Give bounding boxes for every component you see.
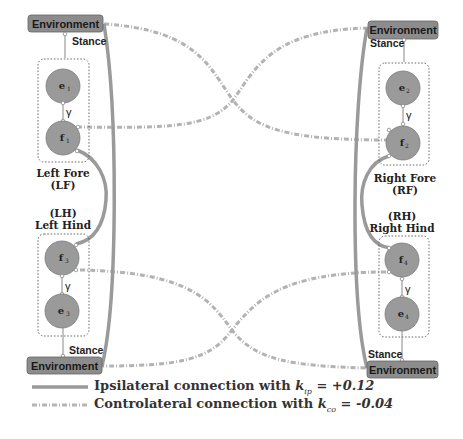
leg-lh: (LH) Left Hind f 3 γ e 3 Stance Environm… [27, 207, 104, 374]
cpg-diagram: Environment Stance e 1 γ f 1 Left Fore (… [0, 0, 463, 439]
svg-text:3: 3 [66, 310, 70, 317]
ipsilateral-connections [76, 24, 390, 368]
legend-contralateral-text: Controlateral connection with [94, 396, 318, 411]
leg-abbr-rh: (RH) [388, 210, 417, 222]
svg-text:2: 2 [405, 142, 409, 149]
gamma-label: γ [65, 280, 71, 292]
contralateral-lh-f3-to-rh-env [80, 270, 367, 368]
env-label: Environment [32, 18, 100, 30]
contralateral-connections [80, 24, 388, 368]
env-label: Environment [369, 364, 437, 376]
leg-name-rf: Right Fore [374, 172, 437, 184]
legend-ipsilateral-text: Ipsilateral connection with [94, 378, 295, 393]
svg-text:3: 3 [65, 257, 69, 264]
leg-abbr-lh: (LH) [49, 207, 76, 219]
node-e2-label: e [399, 82, 405, 93]
svg-text:1: 1 [67, 85, 71, 92]
ipsilateral-left-env-arc [102, 24, 114, 366]
gamma-label: γ [405, 283, 411, 295]
contralateral-rf-env-to-lf-f1 [80, 28, 368, 127]
leg-rh: (RH) Right Hind f 4 γ e 4 Stance Environ… [367, 210, 438, 378]
contralateral-lf-env-to-rf-f2 [104, 24, 388, 140]
gamma-label: γ [66, 106, 72, 118]
node-e1-label: e [59, 80, 65, 91]
contralateral-rh-f4-to-lh-env [102, 272, 386, 366]
leg-name-lh: Left Hind [35, 219, 92, 231]
leg-abbr-lf: (LF) [51, 179, 76, 191]
svg-text:4: 4 [404, 259, 408, 266]
ipsilateral-rf-f2-to-rh-f4 [362, 156, 390, 248]
leg-rf: Environment Stance e 2 γ f 2 Right Fore … [368, 21, 438, 196]
node-f3-label: f [59, 252, 64, 263]
svg-text:4: 4 [405, 313, 409, 320]
svg-text:2: 2 [406, 87, 410, 94]
node-e4-label: e [398, 308, 404, 319]
ipsilateral-line-swatch [28, 384, 90, 390]
legend-ipsilateral-value: = +0.12 [312, 378, 375, 393]
stance-label: Stance [72, 35, 107, 47]
node-e3-label: e [58, 305, 64, 316]
legend-ipsilateral: Ipsilateral connection with kip = +0.12 [28, 378, 374, 396]
leg-name-rh: Right Hind [369, 222, 435, 234]
legend-contralateral: Controlateral connection with kco = -0.0… [28, 396, 393, 414]
env-label: Environment [31, 360, 99, 372]
leg-abbr-rf: (RF) [392, 184, 418, 196]
stance-label: Stance [370, 37, 405, 49]
leg-name-lf: Left Fore [36, 167, 90, 179]
gamma-label: γ [406, 109, 412, 121]
stance-label: Stance [368, 348, 403, 360]
svg-text:1: 1 [66, 137, 70, 144]
env-label: Environment [369, 24, 437, 36]
contralateral-line-swatch [28, 402, 90, 408]
stance-label: Stance [69, 344, 104, 356]
node-f1-label: f [60, 132, 65, 143]
legend-contralateral-value: = -0.04 [336, 396, 393, 411]
